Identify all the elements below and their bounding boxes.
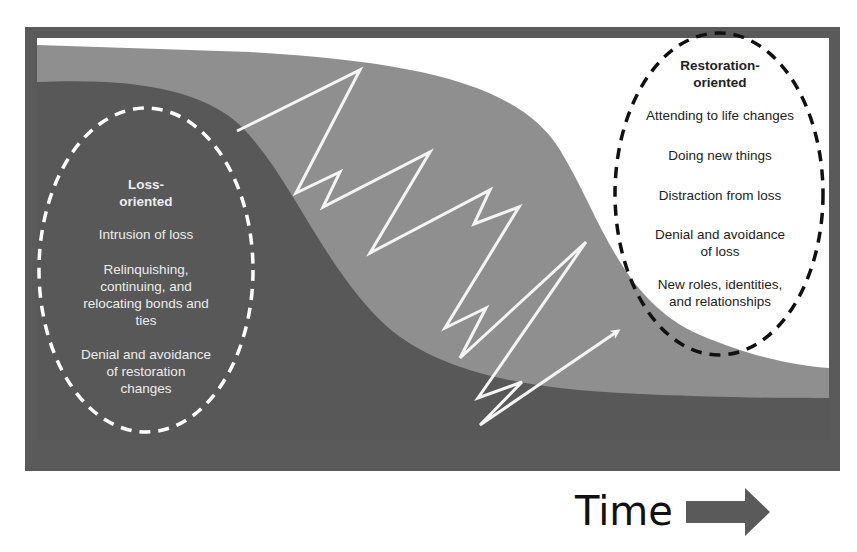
time-arrow-icon — [686, 488, 770, 536]
restoration-item-distraction: Distraction from loss — [624, 187, 816, 204]
restoration-item-new-things: Doing new things — [624, 147, 816, 164]
restoration-oriented-group: Restoration- oriented Attending to life … — [624, 57, 816, 310]
loss-item-denial: Denial and avoidance of restoration chan… — [56, 346, 236, 397]
restoration-oriented-title: Restoration- oriented — [624, 57, 816, 91]
restoration-item-new-roles: New roles, identities, and relationships — [624, 276, 816, 310]
loss-item-relinquishing: Relinquishing, continuing, and relocatin… — [56, 261, 236, 329]
diagram-bottom-band — [25, 440, 840, 471]
restoration-item-attending: Attending to life changes — [624, 107, 816, 124]
loss-oriented-group: Loss- oriented Intrusion of loss Relinqu… — [56, 176, 236, 397]
loss-oriented-title: Loss- oriented — [56, 176, 236, 210]
loss-item-intrusion: Intrusion of loss — [56, 226, 236, 243]
restoration-item-denial: Denial and avoidance of loss — [624, 226, 816, 260]
time-axis-label: Time — [575, 488, 673, 534]
